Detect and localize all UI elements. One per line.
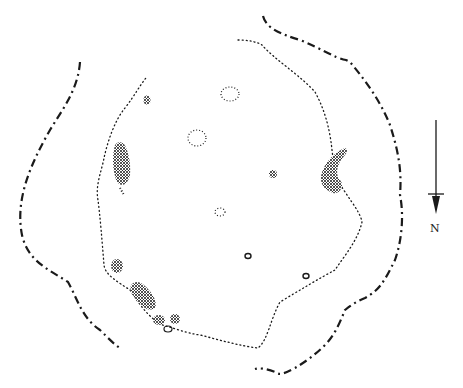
posthole <box>303 274 309 279</box>
north-arrow-icon <box>428 120 444 214</box>
north-label: N <box>430 222 440 235</box>
stone <box>144 96 151 105</box>
stone <box>111 259 123 273</box>
stone <box>170 314 180 324</box>
inner-boundary <box>97 40 362 348</box>
stone-trail <box>120 188 124 195</box>
site-plan <box>0 0 463 388</box>
pit <box>215 208 225 216</box>
outer-boundary-right <box>255 16 402 374</box>
stone <box>269 170 277 178</box>
outer-boundary-left <box>20 62 120 348</box>
pit <box>188 130 206 146</box>
stone <box>113 142 130 185</box>
pit <box>221 87 239 101</box>
stone <box>153 315 165 325</box>
stone <box>321 148 347 193</box>
posthole <box>245 254 251 259</box>
posthole <box>164 326 172 332</box>
stone <box>130 282 155 310</box>
